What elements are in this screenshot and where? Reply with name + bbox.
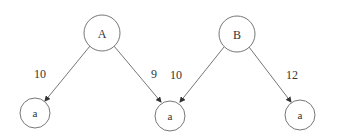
node-label: a [168, 110, 173, 122]
node-B: B [219, 16, 255, 52]
edge-label-a-a1: 10 [34, 67, 46, 81]
node-a3: a [285, 100, 315, 130]
edge-label-b-a3: 12 [286, 68, 298, 82]
node-A: A [84, 15, 120, 51]
node-label: a [298, 109, 303, 121]
node-label: A [98, 27, 107, 41]
tree-diagram: 10 9 10 12 A B a a a [0, 0, 338, 136]
node-label: B [233, 28, 241, 42]
edge-b-to-a2 [180, 47, 224, 102]
edge-label-b-a2: 10 [170, 68, 182, 82]
node-a1: a [20, 98, 50, 128]
edge-b-to-a3 [249, 47, 291, 102]
edge-a-to-a1 [45, 46, 90, 101]
edge-label-a-a2: 9 [151, 67, 157, 81]
node-label: a [33, 107, 38, 119]
node-a2: a [155, 101, 185, 131]
